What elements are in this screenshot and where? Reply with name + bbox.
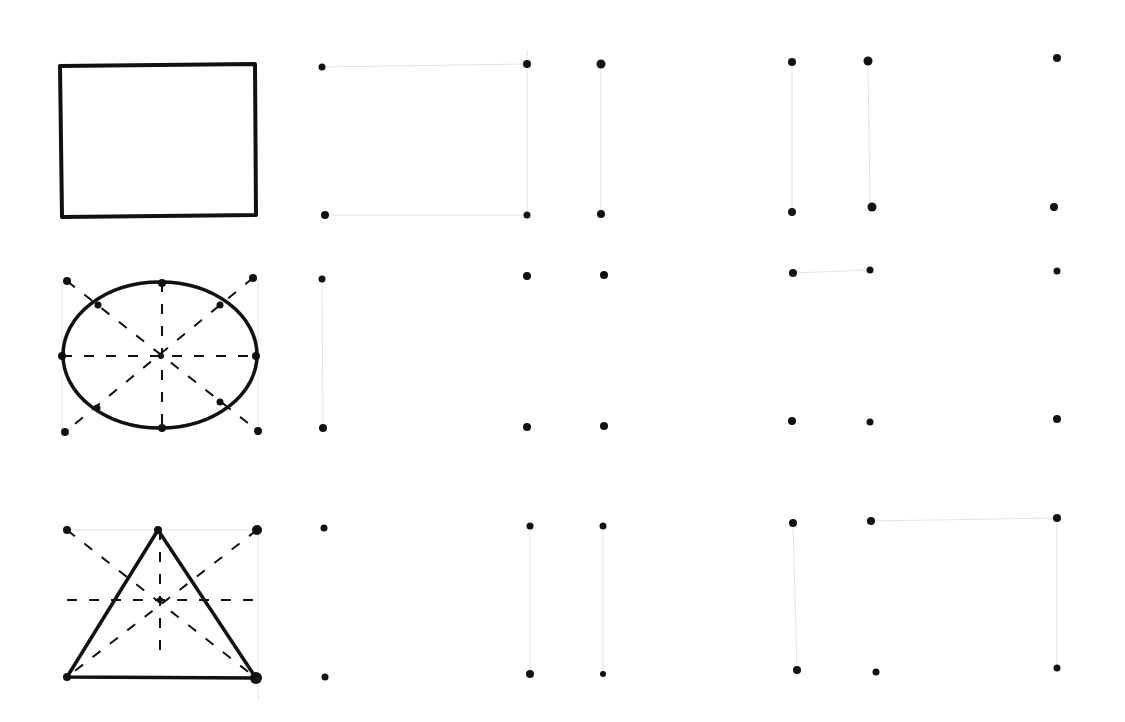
model-ellipse	[58, 274, 262, 436]
faint-guides-row1	[322, 50, 870, 215]
model-triangle	[63, 525, 262, 700]
dot-grids	[319, 54, 1062, 681]
faint-guides-row3	[530, 518, 1057, 674]
faint-guides-row2	[322, 270, 870, 428]
worksheet-canvas	[0, 0, 1125, 722]
model-rectangle	[60, 64, 256, 217]
